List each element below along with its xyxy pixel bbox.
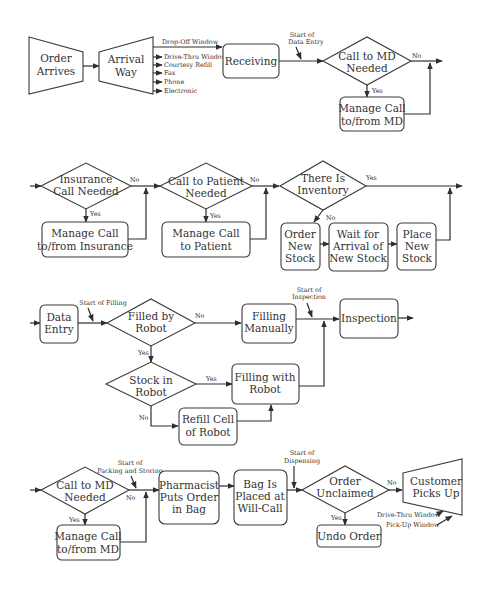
edge-label-yes: Yes: [371, 87, 383, 95]
node-stock-in-robot: Stock in Robot: [106, 362, 196, 406]
row-2: Insurance Call Needed No Yes Manage Call…: [30, 161, 462, 271]
node-label: Call to MD: [338, 50, 395, 62]
node-label: Data: [46, 311, 71, 323]
arrival-way-label: Drop-Off Window: [162, 38, 219, 46]
node-label: Arrives: [36, 65, 76, 77]
node-label: Arrival: [107, 53, 145, 65]
node-label: Manage Call: [51, 227, 119, 239]
node-label: Robot: [249, 383, 281, 395]
node-label: Manage Call: [172, 227, 240, 239]
edge-label-yes: Yes: [89, 210, 101, 218]
node-label: Robot: [135, 322, 167, 334]
edge-label-yes: Yes: [137, 349, 149, 357]
node-label: Will-Call: [237, 502, 283, 514]
node-label: Manage Call: [338, 102, 406, 114]
node-label: Order: [329, 475, 362, 487]
node-label: Manage Call: [54, 530, 122, 542]
node-call-patient-needed: Call to Patient Needed: [160, 163, 252, 209]
arrival-way-label: Courtesy Refill: [164, 61, 212, 69]
node-label: New: [288, 240, 312, 252]
node-arrival-way: Arrival Way: [99, 37, 153, 94]
node-manage-call-md-1: Manage Call to/from MD: [338, 97, 406, 131]
node-manage-call-insurance: Manage Call to/from Insurance: [37, 222, 133, 257]
node-label: Needed: [64, 491, 106, 503]
edge-label-no: No: [387, 479, 397, 487]
edge-arrow: [237, 405, 271, 421]
annotation-start-data-entry: Data Entry: [288, 38, 324, 46]
annotation-pointer: [296, 47, 301, 59]
annotation-start-packing: Packing and Storing: [97, 467, 163, 475]
node-filling-manually: Filling Manually: [242, 304, 296, 343]
arrival-way-label: Fax: [164, 69, 176, 77]
edge-arrow: [151, 406, 178, 426]
annotation-start-dispensing: Dispensing: [284, 457, 320, 465]
edge-label-yes: Yes: [365, 174, 377, 182]
node-label: Call to Patient: [168, 175, 245, 187]
node-label: Undo Order: [317, 530, 382, 542]
node-manage-call-patient: Manage Call to Patient: [162, 222, 250, 257]
annotation-start-packing: Start of: [118, 459, 143, 467]
annotation-start-inspection: Inspection: [292, 293, 326, 301]
node-undo-order: Undo Order: [317, 525, 382, 547]
node-label: Place: [403, 228, 432, 240]
annotation-pointer: [131, 476, 136, 488]
edge-label-yes: Yes: [205, 375, 217, 383]
node-refill-cell-robot: Refill Cell of Robot: [179, 408, 237, 445]
node-label: New: [405, 240, 429, 252]
node-label: Call Needed: [53, 185, 119, 197]
edge-label-no: No: [250, 176, 260, 184]
node-order-arrives: Order Arrives: [29, 37, 83, 94]
row-1: Order Arrives Arrival Way Drop-Off Windo…: [29, 31, 442, 131]
edge-label-yes: Yes: [68, 516, 80, 524]
edge-arrow: [299, 321, 324, 386]
node-filling-with-robot: Filling with Robot: [232, 364, 299, 404]
node-label: Way: [115, 66, 137, 78]
edge-arrow: [436, 188, 450, 240]
node-data-entry: Data Entry: [40, 305, 78, 343]
node-label: Needed: [346, 62, 388, 74]
edge-label-no: No: [412, 52, 422, 60]
node-label: Unclaimed: [316, 487, 374, 499]
node-label: to/from Insurance: [37, 240, 133, 252]
pickup-way-label: Drive-Thru Window: [377, 511, 441, 519]
node-label: Wait for: [337, 228, 380, 240]
node-label: There Is: [301, 172, 345, 184]
node-label: Manually: [244, 322, 294, 334]
node-label: Arrival of: [332, 240, 384, 252]
node-customer-picks-up: Customer Picks Up: [403, 459, 463, 515]
node-label: Stock: [285, 252, 316, 264]
node-label: Stock in: [129, 374, 173, 386]
edge-arrow: [250, 188, 266, 239]
node-label: Receiving: [225, 55, 278, 67]
node-label: Filling: [252, 310, 286, 322]
node-label: Puts Order: [160, 491, 219, 503]
node-label: in Bag: [172, 503, 206, 515]
annotation-pointer: [307, 303, 312, 317]
node-order-new-stock: Order New Stock: [281, 223, 320, 270]
node-call-md-needed-1: Call to MD Needed: [323, 37, 411, 85]
node-label: to/from MD: [341, 115, 403, 127]
flowchart-canvas: Order Arrives Arrival Way Drop-Off Windo…: [0, 0, 487, 589]
edge-arrow: [314, 210, 323, 222]
node-label: Picks Up: [413, 487, 460, 499]
node-insurance-call-needed: Insurance Call Needed: [41, 163, 131, 209]
node-label: Stock: [402, 252, 433, 264]
node-label: Order: [40, 52, 73, 64]
node-bag-placed-will-call: Bag Is Placed at Will-Call: [234, 470, 287, 525]
edge-label-no: No: [126, 494, 136, 502]
node-label: of Robot: [185, 426, 231, 438]
edge-label-yes: Yes: [209, 212, 221, 220]
row-3: Data Entry Start of Filling Filled by Ro…: [30, 286, 413, 445]
edge-label-yes: Yes: [330, 514, 342, 522]
node-label: New Stock: [329, 252, 387, 264]
node-inspection: Inspection: [340, 299, 398, 338]
node-label: Insurance: [59, 173, 112, 185]
node-receiving: Receiving: [223, 44, 279, 78]
node-label: Call to MD: [56, 479, 113, 491]
edge-label-no: No: [326, 214, 336, 222]
edge-arrow: [404, 63, 430, 114]
edge-label-no: No: [195, 312, 205, 320]
node-wait-new-stock: Wait for Arrival of New Stock: [329, 223, 388, 271]
node-label: Inspection: [341, 312, 397, 324]
node-there-is-inventory: There Is Inventory: [280, 161, 366, 210]
